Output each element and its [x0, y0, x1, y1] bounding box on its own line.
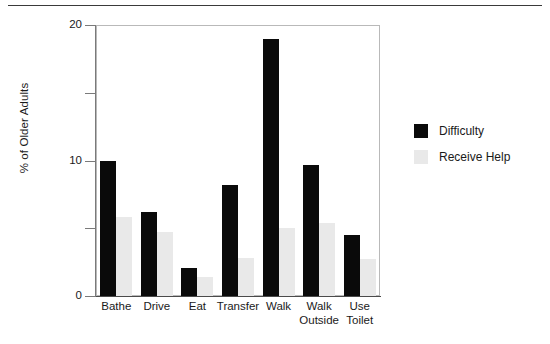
bar-difficulty — [344, 235, 360, 296]
bar-group — [96, 25, 137, 296]
bar-receive-help — [157, 232, 173, 296]
legend-item: Difficulty — [414, 118, 544, 144]
y-tick-minor — [85, 93, 96, 94]
legend-item: Receive Help — [414, 144, 544, 170]
bar-group — [258, 25, 299, 296]
x-axis-tick-labels: BatheDriveEatTransferWalkWalk OutsideUse… — [96, 300, 380, 340]
x-tick-label: Use Toilet — [329, 300, 390, 327]
bar-receive-help — [279, 228, 295, 296]
y-axis-title: % of Older Adults — [18, 68, 30, 188]
y-tick-major — [85, 25, 96, 26]
y-tick-label-text: 20 — [56, 19, 82, 31]
bars-layer — [96, 25, 380, 296]
y-tick-minor — [85, 228, 96, 229]
bar-receive-help — [360, 259, 376, 296]
bar-difficulty — [100, 161, 116, 297]
page-top-rule — [8, 5, 542, 6]
bar-group — [299, 25, 340, 296]
legend-label: Difficulty — [439, 124, 484, 138]
figure-container: % of Older Adults 01020 BatheDriveEatTra… — [0, 0, 550, 344]
legend-swatch-icon — [414, 150, 428, 164]
bar-receive-help — [116, 217, 132, 296]
y-tick-label: 0 — [56, 290, 82, 302]
bar-difficulty — [141, 212, 157, 296]
legend-swatch-icon — [414, 124, 428, 138]
y-tick-label: 20 — [56, 19, 82, 31]
bar-difficulty — [303, 165, 319, 296]
legend-label: Receive Help — [439, 150, 510, 164]
bar-difficulty — [181, 268, 197, 296]
y-tick-major — [85, 296, 96, 297]
y-tick-major — [85, 161, 96, 162]
bar-difficulty — [263, 39, 279, 296]
bar-receive-help — [319, 223, 335, 296]
bar-receive-help — [238, 258, 254, 296]
bar-group — [339, 25, 380, 296]
y-tick-label: 10 — [56, 155, 82, 167]
bar-group — [218, 25, 259, 296]
y-tick-label-text: 0 — [56, 290, 82, 302]
bar-receive-help — [197, 277, 213, 296]
bar-group — [137, 25, 178, 296]
x-axis-line — [95, 296, 381, 297]
bar-difficulty — [222, 185, 238, 296]
chart-legend: DifficultyReceive Help — [414, 118, 544, 170]
bar-group — [177, 25, 218, 296]
y-tick-label-text: 10 — [56, 155, 82, 167]
